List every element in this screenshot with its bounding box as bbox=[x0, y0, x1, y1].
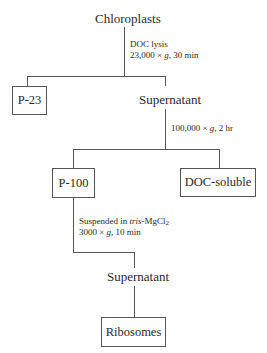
node-supernatant-2: Supernatant bbox=[107, 270, 169, 283]
box-ribosomes-label: Ribosomes bbox=[106, 325, 162, 340]
box-p23: P-23 bbox=[12, 86, 47, 115]
node-chloroplasts: Chloroplasts bbox=[95, 12, 161, 25]
box-p100: P-100 bbox=[52, 168, 95, 198]
step1-condition-line1: DOC lysis bbox=[130, 39, 199, 50]
box-doc-soluble-label: DOC-soluble bbox=[185, 175, 252, 190]
step1-condition: DOC lysis 23,000 × g, 30 min bbox=[130, 39, 199, 61]
connector-supernatant1-down bbox=[165, 109, 166, 149]
connector-step1-split bbox=[27, 76, 166, 77]
step3-condition-line1: Suspended in tris-MgCl2 bbox=[79, 216, 169, 227]
connector-p100-down bbox=[73, 198, 74, 253]
step3-condition: Suspended in tris-MgCl2 3000 × g, 10 min bbox=[79, 216, 169, 238]
connector-step3-jog bbox=[73, 252, 135, 253]
box-p100-label: P-100 bbox=[59, 176, 89, 191]
connector-supernatant2-down bbox=[134, 286, 135, 317]
connector-to-p23 bbox=[27, 76, 28, 86]
connector-to-p100 bbox=[73, 149, 74, 168]
connector-to-doc-soluble bbox=[219, 149, 220, 168]
step1-condition-line2: 23,000 × g, 30 min bbox=[130, 50, 199, 61]
connector-to-supernatant2 bbox=[134, 252, 135, 268]
connector-step2-split bbox=[73, 149, 220, 150]
connector-to-supernatant1 bbox=[165, 76, 166, 86]
node-supernatant-1: Supernatant bbox=[139, 93, 201, 106]
box-doc-soluble: DOC-soluble bbox=[180, 168, 256, 197]
step3-condition-line2: 3000 × g, 10 min bbox=[79, 227, 169, 238]
step2-condition: 100,000 × g, 2 hr bbox=[171, 123, 233, 134]
box-ribosomes: Ribosomes bbox=[101, 317, 166, 347]
connector-chloroplasts-down bbox=[124, 27, 125, 76]
box-p23-label: P-23 bbox=[18, 93, 42, 108]
